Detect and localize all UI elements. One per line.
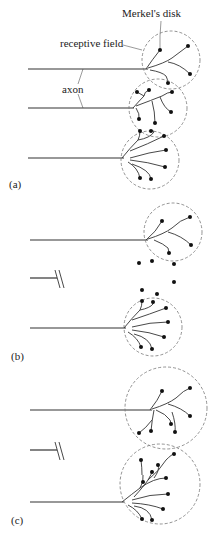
axon-leader-1 [78,69,83,84]
receptive-field [142,31,200,89]
neuron-a3 [28,129,179,189]
axon-leader-2 [78,94,83,108]
panel-c: (c) [11,367,207,527]
merkel-disk-diagram: Merkel's disk receptive field axon [0,0,218,539]
neuron-c1 [30,367,207,449]
enlarged-receptive-field [120,444,200,524]
receptive-field [144,203,202,261]
receptive-field-label: receptive field [60,37,124,49]
receptive-field-leader [123,45,142,50]
severed-axon-b [30,270,64,288]
enlarged-receptive-field [125,367,207,449]
panel-label-b: (b) [11,350,24,363]
neuron-b1 [30,203,202,261]
axon-label: axon [62,83,84,95]
merkels-disk [158,48,162,52]
panel-b: (b) [11,203,202,363]
merkels-disk-leader [160,21,161,49]
panel-a: Merkel's disk receptive field axon [9,7,200,191]
neuron-c3 [30,444,200,524]
orphaned-merkels-disks [137,259,176,296]
neuron-a2 [28,79,187,137]
merkels-disk-label: Merkel's disk [122,7,182,19]
panel-label-a: (a) [9,178,22,191]
severed-axon-c [30,442,64,460]
panel-label-c: (c) [11,514,24,527]
neuron-b3 [30,298,182,356]
